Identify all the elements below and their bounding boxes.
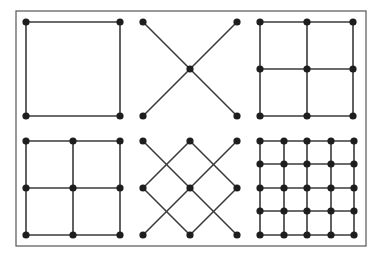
node-dot bbox=[327, 137, 334, 144]
node-dot bbox=[256, 137, 263, 144]
node-dot bbox=[280, 231, 287, 238]
node-dot bbox=[327, 184, 334, 191]
node-dot bbox=[327, 231, 334, 238]
node-dot bbox=[327, 207, 334, 214]
node-dot bbox=[349, 112, 356, 119]
node-dot bbox=[256, 65, 263, 72]
lattice-diagram bbox=[0, 0, 380, 257]
node-dot bbox=[256, 18, 263, 25]
node-dot bbox=[69, 231, 76, 238]
node-dot bbox=[350, 137, 357, 144]
node-dot bbox=[186, 137, 193, 144]
node-dot bbox=[303, 137, 310, 144]
panel-square bbox=[22, 18, 123, 119]
node-dot bbox=[303, 160, 310, 167]
node-dot bbox=[69, 184, 76, 191]
node-dot bbox=[349, 18, 356, 25]
node-dot bbox=[256, 160, 263, 167]
node-dot bbox=[22, 231, 29, 238]
node-dot bbox=[22, 137, 29, 144]
node-dot bbox=[303, 231, 310, 238]
node-dot bbox=[139, 18, 146, 25]
node-dot bbox=[139, 112, 146, 119]
node-dot bbox=[350, 160, 357, 167]
node-dot bbox=[116, 184, 123, 191]
node-dot bbox=[256, 207, 263, 214]
node-dot bbox=[350, 231, 357, 238]
node-dot bbox=[116, 137, 123, 144]
node-dot bbox=[350, 184, 357, 191]
node-dot bbox=[280, 184, 287, 191]
node-dot bbox=[186, 65, 193, 72]
node-dot bbox=[233, 231, 240, 238]
node-dot bbox=[256, 112, 263, 119]
node-dot bbox=[116, 231, 123, 238]
node-dot bbox=[186, 231, 193, 238]
node-dot bbox=[116, 112, 123, 119]
panel-grid-3x3-b bbox=[22, 137, 123, 238]
node-dot bbox=[303, 112, 310, 119]
node-dot bbox=[256, 184, 263, 191]
node-dot bbox=[349, 65, 356, 72]
node-dot bbox=[350, 207, 357, 214]
node-dot bbox=[303, 18, 310, 25]
panel-x-cross bbox=[139, 18, 240, 119]
node-dot bbox=[22, 112, 29, 119]
node-dot bbox=[139, 231, 146, 238]
node-dot bbox=[303, 65, 310, 72]
node-dot bbox=[69, 137, 76, 144]
node-dot bbox=[303, 184, 310, 191]
panel-grid-3x3-a bbox=[256, 18, 356, 119]
node-dot bbox=[233, 184, 240, 191]
node-dot bbox=[186, 184, 193, 191]
node-dot bbox=[256, 231, 263, 238]
panel-grid-5x5 bbox=[256, 137, 357, 238]
node-dot bbox=[327, 160, 334, 167]
node-dot bbox=[22, 184, 29, 191]
node-dot bbox=[233, 18, 240, 25]
node-dot bbox=[139, 137, 146, 144]
node-dot bbox=[280, 207, 287, 214]
node-dot bbox=[280, 137, 287, 144]
node-dot bbox=[233, 137, 240, 144]
node-dot bbox=[116, 18, 123, 25]
node-dot bbox=[233, 112, 240, 119]
node-dot bbox=[303, 207, 310, 214]
panel-diamond-lattice bbox=[139, 137, 240, 238]
node-dot bbox=[139, 184, 146, 191]
node-dot bbox=[280, 160, 287, 167]
node-dot bbox=[22, 18, 29, 25]
